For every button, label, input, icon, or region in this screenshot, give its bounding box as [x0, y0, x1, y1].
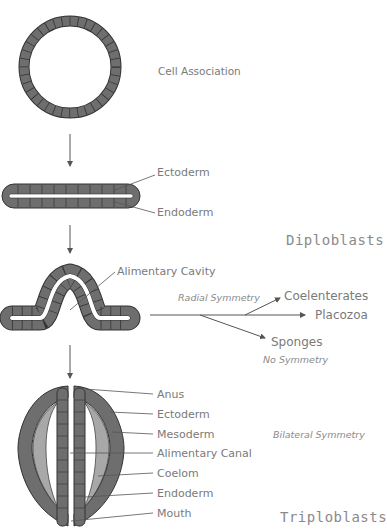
label-anus: Anus: [157, 389, 184, 400]
label-radial-symmetry: Radial Symmetry: [178, 293, 260, 303]
label-endoderm-flat: Endoderm: [157, 207, 213, 218]
label-alimentary-cavity: Alimentary Cavity: [117, 266, 215, 277]
triploblast-body: [18, 386, 153, 526]
label-bilateral-symmetry: Bilateral Symmetry: [273, 430, 365, 440]
branch-arrows: [150, 298, 305, 338]
label-mesoderm: Mesoderm: [157, 429, 215, 440]
label-ectoderm: Ectoderm: [157, 409, 210, 420]
label-triploblasts: Triploblasts: [280, 510, 387, 524]
cell-ring: [24, 21, 116, 113]
label-mouth: Mouth: [157, 508, 191, 519]
label-cell-association: Cell Association: [158, 66, 241, 77]
folded-bilayer: [12, 272, 128, 318]
label-coelenterates: Coelenterates: [284, 290, 368, 302]
label-endoderm: Endoderm: [157, 488, 213, 499]
label-alimentary-canal: Alimentary Canal: [157, 448, 252, 459]
label-coelom: Coelom: [157, 468, 199, 479]
label-ectoderm-flat: Ectoderm: [157, 167, 210, 178]
label-sponges: Sponges: [271, 336, 322, 348]
flat-bilayer: [2, 175, 155, 213]
label-no-symmetry: No Symmetry: [263, 355, 328, 365]
label-diploblasts: Diploblasts: [286, 233, 384, 247]
label-placozoa: Placozoa: [315, 309, 368, 321]
